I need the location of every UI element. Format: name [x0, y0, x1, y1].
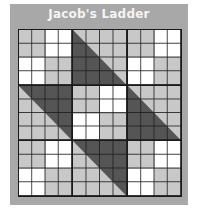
- grid-lines: [73, 86, 126, 141]
- half-square-triangle-block: [19, 86, 72, 141]
- grid-lines: [73, 141, 126, 196]
- quilt-grid: [18, 29, 182, 197]
- four-patch-block: [128, 30, 181, 85]
- grid-lines: [128, 86, 181, 141]
- grid-lines: [19, 86, 72, 141]
- four-patch-block: [73, 86, 126, 141]
- grid-lines: [128, 141, 181, 196]
- half-square-triangle-block: [128, 86, 181, 141]
- grid-lines: [128, 30, 181, 85]
- grid-lines: [73, 30, 126, 85]
- grid-lines: [19, 141, 72, 196]
- half-square-triangle-block: [73, 30, 126, 85]
- half-square-triangle-block: [73, 141, 126, 196]
- quilt-title: Jacob's Ladder: [10, 7, 188, 21]
- four-patch-block: [128, 141, 181, 196]
- quilt-block-frame: Jacob's Ladder: [10, 4, 188, 205]
- four-patch-block: [19, 30, 72, 85]
- grid-lines: [19, 30, 72, 85]
- four-patch-block: [19, 141, 72, 196]
